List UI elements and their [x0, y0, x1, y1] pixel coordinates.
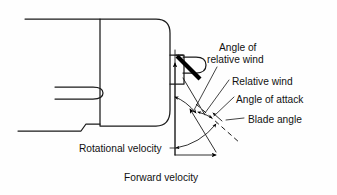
engine-nacelle-outline — [18, 19, 170, 131]
propeller-blade-section — [176, 55, 206, 79]
label-blade-angle: Blade angle — [248, 114, 302, 125]
label-angle-of-relative-wind-line2: relative wind — [207, 54, 264, 65]
leader-blade-angle — [226, 118, 244, 120]
label-relative-wind: Relative wind — [232, 76, 293, 87]
label-rotational-velocity: Rotational velocity — [79, 143, 163, 154]
label-angle-of-relative-wind-line1: Angle of — [219, 42, 257, 53]
leader-relative-wind — [205, 80, 229, 113]
label-forward-velocity: Forward velocity — [124, 172, 199, 183]
leader-angle-of-attack — [214, 97, 234, 116]
arc-blade-angle — [176, 124, 216, 148]
propeller-diagram-figure: Angle of relative wind Relative wind Ang… — [0, 0, 337, 195]
arc-angle-of-relative-wind — [175, 97, 196, 113]
blade-hub-mount — [170, 50, 184, 155]
diagram-canvas: Angle of relative wind Relative wind Ang… — [0, 0, 337, 195]
relative-wind-vector — [190, 109, 216, 152]
label-angle-of-attack: Angle of attack — [236, 94, 304, 105]
